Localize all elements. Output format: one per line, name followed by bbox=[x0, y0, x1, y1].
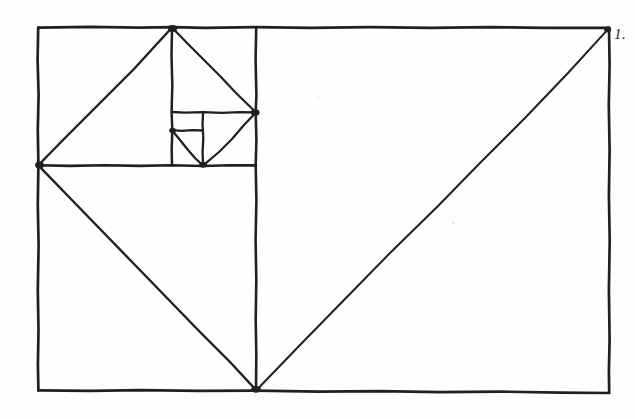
node-vertex-mid-right bbox=[251, 109, 260, 115]
chord-square-1-largest bbox=[256, 29, 608, 391]
node-vertex-top bbox=[168, 25, 177, 32]
golden-rectangle-figure bbox=[0, 0, 635, 419]
horizontal-divider-3-line bbox=[172, 130, 203, 131]
node-vertex-inner-bottom bbox=[199, 162, 207, 168]
vertical-divider-main-line bbox=[256, 27, 257, 390]
spiral-chords-group bbox=[39, 28, 609, 390]
node-vertex-right bbox=[604, 27, 611, 33]
horizontal-divider-2-line bbox=[172, 112, 256, 113]
figure-canvas: 1. bbox=[0, 0, 635, 419]
frame-bottom-edge bbox=[38, 390, 609, 393]
chord-square-3-upper-left bbox=[39, 28, 172, 165]
frame-top-edge bbox=[39, 27, 610, 28]
chord-square-4-upper-mid bbox=[172, 28, 256, 113]
node-vertex-inner-left bbox=[169, 128, 176, 133]
division-lines-group bbox=[38, 27, 256, 390]
horizontal-divider-main-line bbox=[38, 165, 256, 166]
chord-square-5-right-small bbox=[203, 112, 256, 165]
node-vertex-left bbox=[35, 161, 44, 168]
chord-square-2-lower-left bbox=[39, 166, 257, 391]
vertical-divider-3-line bbox=[203, 112, 204, 165]
figure-number-label: 1. bbox=[614, 26, 626, 43]
node-vertex-bottom bbox=[251, 386, 261, 393]
vertical-divider-2-line bbox=[172, 27, 173, 165]
frame-left-edge bbox=[38, 28, 39, 391]
paper-speck bbox=[452, 222, 455, 224]
chord-square-6-left-small bbox=[172, 130, 203, 165]
outer-rectangle-frame bbox=[38, 27, 610, 393]
frame-right-edge bbox=[609, 28, 610, 393]
paper-speck bbox=[318, 96, 320, 98]
